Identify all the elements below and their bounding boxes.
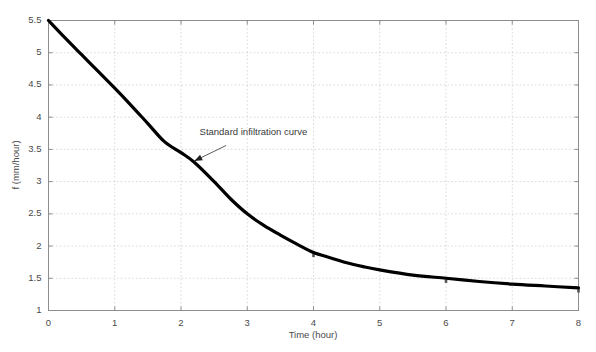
x-axis-title: Time (hour) bbox=[289, 329, 338, 340]
x-tick-label: 1 bbox=[112, 317, 117, 328]
y-tick-label: 2 bbox=[36, 240, 41, 251]
x-tick-label: 2 bbox=[178, 317, 183, 328]
annotation-arrow-head bbox=[194, 155, 203, 161]
y-axis-tick-labels: 11.522.533.544.555.5 bbox=[28, 14, 41, 315]
infiltration-curve-figure: 11.522.533.544.555.5 012345678 Standard … bbox=[0, 0, 596, 352]
grid-lines bbox=[49, 21, 579, 311]
y-tick-label: 4 bbox=[36, 111, 41, 122]
y-tick-label: 3.5 bbox=[28, 143, 41, 154]
y-tick-label: 4.5 bbox=[28, 78, 41, 89]
y-axis-title: f (mm/hour) bbox=[10, 140, 21, 189]
x-tick-label: 7 bbox=[510, 317, 515, 328]
data-point-marker bbox=[577, 289, 580, 292]
chart-canvas: 11.522.533.544.555.5 012345678 Standard … bbox=[0, 0, 596, 352]
y-tick-label: 3 bbox=[36, 175, 41, 186]
annotation-label: Standard infiltration curve bbox=[200, 126, 308, 137]
y-tick-label: 1 bbox=[36, 304, 41, 315]
x-tick-label: 5 bbox=[377, 317, 382, 328]
x-axis-tick-labels: 012345678 bbox=[46, 317, 581, 328]
y-tick-label: 1.5 bbox=[28, 272, 41, 283]
y-tick-label: 2.5 bbox=[28, 207, 41, 218]
data-point-marker bbox=[445, 279, 448, 282]
x-tick-label: 8 bbox=[576, 317, 581, 328]
y-tick-label: 5.5 bbox=[28, 14, 41, 25]
curve-annotation: Standard infiltration curve bbox=[194, 126, 307, 161]
x-tick-label: 0 bbox=[46, 317, 51, 328]
y-tick-label: 5 bbox=[36, 46, 41, 57]
x-tick-label: 4 bbox=[311, 317, 316, 328]
x-tick-label: 6 bbox=[443, 317, 448, 328]
x-tick-label: 3 bbox=[245, 317, 250, 328]
